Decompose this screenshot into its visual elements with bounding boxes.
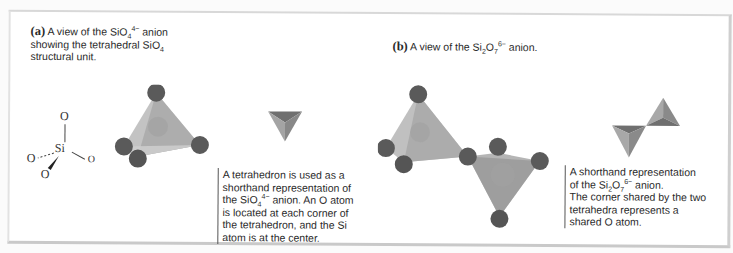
si2o7-3d-model-icon xyxy=(377,80,558,231)
panel-b-caption: A shorthand representation of the Si2O76… xyxy=(564,165,724,229)
text: is located at each corner of xyxy=(222,206,348,219)
oxygen-bottom: O xyxy=(41,167,50,182)
text: A shorthand representation xyxy=(570,165,696,178)
text: The corner shared by the two xyxy=(570,190,707,203)
text: anion. xyxy=(632,178,664,190)
text: shorthand representation of xyxy=(223,181,351,194)
text: O xyxy=(486,41,494,53)
superscript: 4− xyxy=(131,25,139,32)
text: shared O atom. xyxy=(569,216,641,228)
subscript: 7 xyxy=(494,48,498,55)
oxygen-top: O xyxy=(60,109,69,124)
superscript: 4− xyxy=(262,193,270,200)
oxygen-right: O xyxy=(88,153,95,164)
sio4-3d-model-icon xyxy=(110,84,221,185)
figure-card: (a) A view of the SiO44− anion showing t… xyxy=(7,10,731,248)
text: tetrahedra represents a xyxy=(569,203,678,216)
text: O xyxy=(612,178,620,190)
text: the SiO xyxy=(223,193,258,205)
si2o7-shorthand-icon xyxy=(606,95,686,165)
silicon: Si xyxy=(55,141,65,156)
text: the tetrahedron, and the Si xyxy=(222,218,346,231)
panel-a-caption: A tetrahedron is used as a shorthand rep… xyxy=(217,168,372,245)
text: anion. xyxy=(506,41,538,53)
text: of the Si xyxy=(570,178,609,190)
text: anion. An O atom xyxy=(269,194,353,207)
text: A view of the Si xyxy=(410,40,482,52)
superscript: 6− xyxy=(624,178,632,185)
text: A tetrahedron is used as a xyxy=(223,168,345,181)
panel-b-label: (b) xyxy=(392,39,407,53)
text: atom is at the center. xyxy=(222,231,320,244)
oxygen-left: O xyxy=(27,151,36,166)
text: anion xyxy=(139,26,168,38)
subscript: 4 xyxy=(160,45,164,52)
panel-b-heading: (b) A view of the Si2O76− anion. xyxy=(392,40,612,54)
tetrahedron-shorthand-icon xyxy=(266,109,306,145)
